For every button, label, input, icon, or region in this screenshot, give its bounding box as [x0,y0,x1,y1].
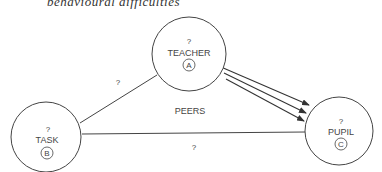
task-question: ? [46,125,51,134]
teacher-marker: A [186,61,192,70]
task-marker: B [44,149,49,158]
edge-teacher-task-label: ? [116,78,121,87]
pupil-marker: C [338,140,344,149]
edge-teacher-pupil-arrows [221,67,309,121]
relationship-diagram: ? TEACHER A ? TASK B ? PUPIL C ? ? PEERS [0,0,382,172]
node-task: ? TASK B [11,102,81,172]
node-pupil: ? PUPIL C [305,97,373,165]
arrow-1 [221,67,309,105]
peers-label: PEERS [175,106,206,116]
teacher-label: TEACHER [167,48,211,58]
arrow-2 [224,73,306,113]
pupil-label: PUPIL [328,127,354,137]
node-teacher: ? TEACHER A [152,17,226,91]
teacher-question: ? [187,37,192,46]
edge-task-pupil-label: ? [192,143,197,152]
pupil-question: ? [339,117,344,126]
arrow-3 [226,79,304,121]
task-label: TASK [36,135,59,145]
edge-task-pupil [82,132,305,134]
